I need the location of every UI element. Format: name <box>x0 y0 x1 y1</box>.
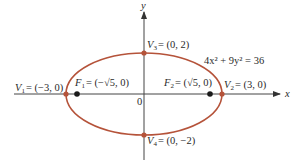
focus-f2-point <box>207 91 213 97</box>
vertex-v1-point <box>63 91 68 96</box>
vertex-v2-point <box>219 91 224 96</box>
focus-f2-label: F2= (√5, 0) <box>163 77 212 90</box>
focus-f1-label: F1= (−√5, 0) <box>74 77 129 90</box>
vertex-v3-point <box>141 50 146 55</box>
focus-f1-point <box>74 91 80 97</box>
ellipse-equation: 4x² + 9y² = 36 <box>204 55 264 66</box>
y-axis-label: y <box>140 0 146 11</box>
vertex-v2-label: V2= (3, 0) <box>224 79 267 92</box>
origin-label: 0 <box>137 96 142 107</box>
vertex-v3-label: V3= (0, 2) <box>147 39 190 52</box>
x-axis-label: x <box>284 88 290 99</box>
vertex-v1-label: V1= (−3, 0) <box>15 82 64 95</box>
diagram-canvas: y x 0 V1= (−3, 0) F1= (−√5, 0) F2= (√5, … <box>0 0 297 163</box>
ellipse-diagram: y x 0 V1= (−3, 0) F1= (−√5, 0) F2= (√5, … <box>0 0 297 163</box>
vertex-v4-point <box>141 132 146 137</box>
vertex-v4-label: V4= (0, −2) <box>147 135 196 148</box>
